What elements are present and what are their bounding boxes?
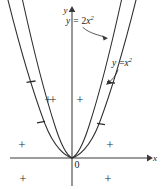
plus-marks-group: + + + + + + + [18, 92, 113, 186]
plus-mark-lower-right-below-axis: + [104, 171, 111, 186]
label-x2-text: y=x2 [111, 56, 133, 68]
label-x2-lhs: y [111, 58, 117, 68]
minus-mark-right-lower [97, 123, 105, 124]
x-axis-label: x [152, 153, 157, 163]
minus-mark-left-upper [27, 81, 36, 82]
label-x2-exponent: 2 [129, 56, 133, 63]
y-axis-arrowhead [69, 6, 76, 12]
plus-mark-lower-left-below-axis: + [19, 171, 26, 186]
y-axis-label: y [63, 5, 68, 15]
plus-mark-outer-left: + [49, 92, 56, 107]
label-x2-group: y=x2 [106, 56, 133, 85]
label-2x2-lhs: y [65, 16, 71, 26]
label-2x2-op: = [73, 16, 78, 26]
origin-label: 0 [75, 159, 80, 170]
label-2x2-text: y=2x2 [65, 14, 95, 26]
plus-mark-lower-right-above-axis: + [106, 137, 113, 152]
label-2x2-exponent: 2 [91, 14, 95, 21]
label-2x2-group: y=2x2 [65, 14, 108, 41]
parabola-figure: y x 0 y=2x2 y=x2 + + + + + + [0, 0, 162, 189]
minus-marks-group [27, 81, 116, 125]
minus-mark-left-lower [37, 121, 45, 122]
plus-mark-lower-left-above-axis: + [18, 137, 25, 152]
figure-canvas: y x 0 y=2x2 y=x2 + + + + + + [0, 0, 162, 189]
plus-mark-inner-right: + [76, 92, 83, 107]
